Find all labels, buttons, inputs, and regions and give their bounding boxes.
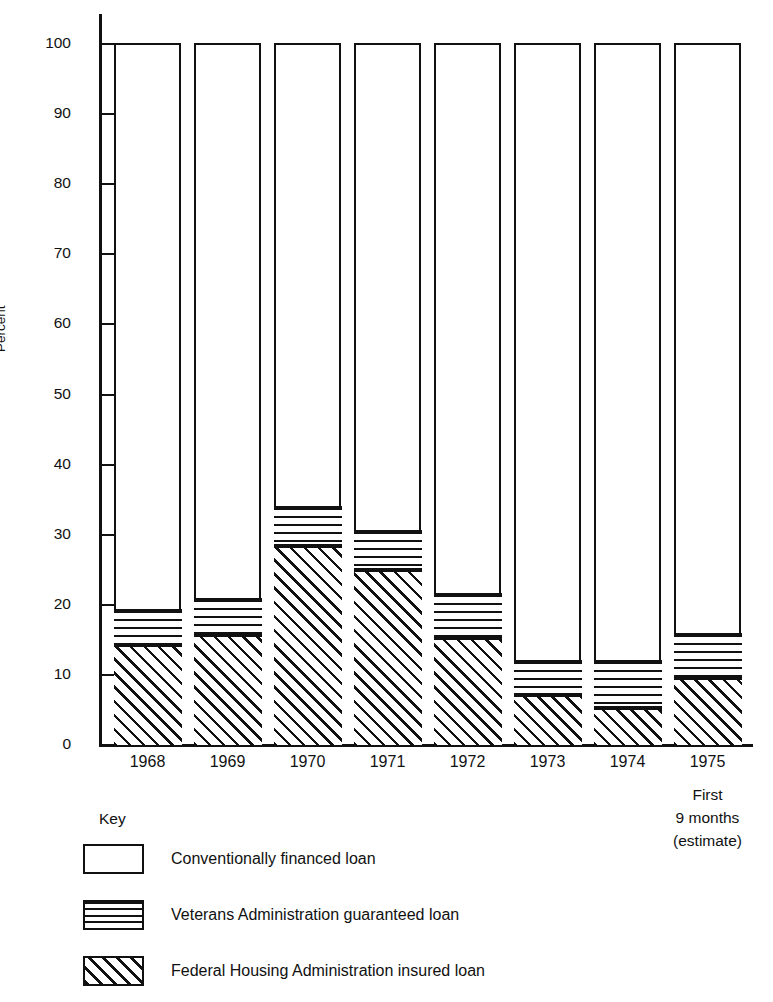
segment-va-1974	[594, 660, 662, 708]
x-tick-label-1974: 1974	[583, 753, 673, 771]
segment-fha-1972	[434, 638, 502, 744]
bar-1972	[434, 43, 501, 744]
y-tick-label: 60	[25, 315, 71, 331]
bar-1970	[274, 43, 341, 744]
legend-swatch-horizontal-lines	[83, 900, 144, 930]
segment-fha-1971	[354, 570, 422, 745]
stacked-bar-chart: Percent 1009080706050403020100 196819691…	[0, 0, 773, 1002]
segment-va-1972	[434, 593, 502, 639]
legend-item: Veterans Administration guaranteed loan	[83, 894, 643, 936]
segment-va-1975	[674, 633, 742, 679]
y-tick-label: 20	[25, 596, 71, 612]
bar-1968	[114, 43, 181, 744]
segment-va-1970	[274, 506, 342, 546]
legend-rows: Conventionally financed loanVeterans Adm…	[83, 838, 643, 992]
x-tick-label-1969: 1969	[183, 753, 273, 771]
segment-fha-1973	[514, 695, 582, 744]
segment-fha-1968	[114, 645, 182, 744]
x-axis-note-1975: First9 months(estimate)	[648, 783, 768, 852]
legend-label: Federal Housing Administration insured l…	[171, 962, 485, 980]
y-tick-label: 80	[25, 175, 71, 191]
segment-va-1969	[194, 598, 262, 634]
bar-1973	[514, 43, 581, 744]
y-tick-label: 0	[25, 736, 71, 752]
x-tick-label-1973: 1973	[503, 753, 593, 771]
y-tick-label: 100	[25, 35, 71, 51]
y-tick-label: 50	[25, 386, 71, 402]
segment-fha-1969	[194, 635, 262, 745]
x-tick-label-1968: 1968	[103, 753, 193, 771]
legend-label: Veterans Administration guaranteed loan	[171, 906, 459, 924]
legend-item: Conventionally financed loan	[83, 838, 643, 880]
y-tick-label: 10	[25, 666, 71, 682]
legend: Key Conventionally financed loanVeterans…	[83, 810, 643, 1002]
plot-area	[101, 43, 745, 744]
bar-1974	[594, 43, 661, 744]
x-tick-label-1971: 1971	[343, 753, 433, 771]
segment-fha-1970	[274, 546, 342, 745]
segment-va-1968	[114, 609, 182, 645]
x-note-line: (estimate)	[648, 829, 768, 852]
segment-fha-1975	[674, 678, 742, 744]
bar-1975	[674, 43, 741, 744]
y-axis-title: Percent	[0, 305, 8, 352]
segment-va-1973	[514, 660, 582, 695]
legend-title: Key	[99, 810, 643, 828]
bar-1969	[194, 43, 261, 744]
x-tick-label-1975: 1975	[663, 753, 753, 771]
y-tick-label: 90	[25, 105, 71, 121]
y-tick-label: 40	[25, 456, 71, 472]
segment-va-1971	[354, 530, 422, 570]
x-tick-label-1972: 1972	[423, 753, 513, 771]
bar-1971	[354, 43, 421, 744]
legend-swatch-white	[83, 844, 144, 874]
legend-label: Conventionally financed loan	[171, 850, 376, 868]
y-tick-label: 30	[25, 526, 71, 542]
legend-swatch-diagonal-hatch	[83, 956, 144, 986]
x-note-line: 9 months	[648, 806, 768, 829]
legend-item: Federal Housing Administration insured l…	[83, 950, 643, 992]
segment-fha-1974	[594, 708, 662, 745]
x-note-line: First	[648, 783, 768, 806]
y-tick-label: 70	[25, 245, 71, 261]
x-tick-label-1970: 1970	[263, 753, 353, 771]
